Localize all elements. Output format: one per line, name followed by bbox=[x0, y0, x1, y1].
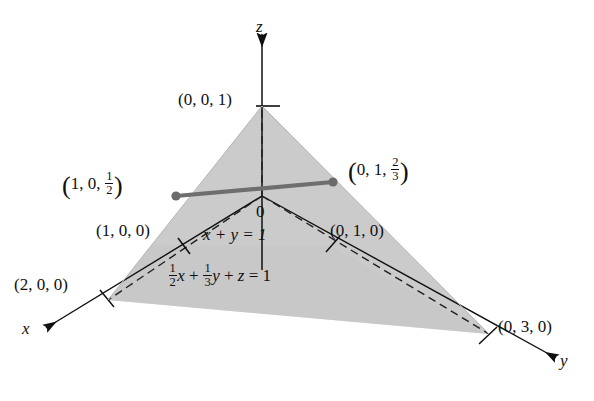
right-endpoint-y: 1 bbox=[374, 160, 383, 179]
plane-equals-one: = 1 bbox=[249, 266, 271, 285]
fraction-denominator: 3 bbox=[203, 275, 211, 289]
point-label-unit-x: (1, 0, 0) bbox=[96, 222, 150, 239]
point-label-unit-y: (0, 1, 0) bbox=[330, 222, 384, 239]
z-axis-label: z bbox=[256, 18, 263, 35]
plane-var-y: y bbox=[212, 266, 220, 285]
left-endpoint-z-fraction: 1 2 bbox=[105, 170, 113, 197]
fraction-denominator: 3 bbox=[391, 169, 399, 183]
fraction-numerator: 1 bbox=[203, 262, 211, 275]
coef-x-fraction: 1 2 bbox=[169, 262, 177, 289]
segment-endpoint-right-dot bbox=[328, 177, 337, 186]
comma-2: , bbox=[382, 160, 391, 179]
origin-label: 0 bbox=[256, 203, 265, 220]
fraction-numerator: 1 bbox=[105, 170, 113, 183]
x-axis-label: x bbox=[22, 320, 30, 337]
segment-endpoint-left-label: (1, 0, 1 2 ) bbox=[62, 170, 123, 199]
point-label-y-intercept: (0, 3, 0) bbox=[498, 318, 552, 335]
point-label-x-intercept: (2, 0, 0) bbox=[14, 276, 68, 293]
fraction-denominator: 2 bbox=[169, 275, 177, 289]
y-axis-label: y bbox=[560, 352, 568, 369]
paren-close: ) bbox=[114, 171, 123, 200]
comma-1: , bbox=[79, 174, 88, 193]
paren-open: ( bbox=[348, 157, 357, 186]
line-equation-label: x + y = 1 bbox=[203, 226, 267, 243]
plane-equation-label: 1 2 x + 1 3 y + z = 1 bbox=[168, 262, 271, 289]
spacer-1 bbox=[199, 266, 203, 285]
fraction-numerator: 2 bbox=[391, 156, 399, 169]
comma-1: , bbox=[365, 160, 374, 179]
point-label-z-intercept: (0, 0, 1) bbox=[178, 91, 232, 108]
math-figure: z x y (0, 0, 1) 0 (1, 0, 0) (0, 1, 0) (2… bbox=[0, 0, 594, 401]
plane-var-x: x bbox=[177, 266, 185, 285]
coef-y-fraction: 1 3 bbox=[203, 262, 211, 289]
left-endpoint-y: 0 bbox=[88, 174, 97, 193]
comma-2: , bbox=[96, 174, 105, 193]
fraction-numerator: 1 bbox=[169, 262, 177, 275]
left-endpoint-x: 1 bbox=[71, 174, 80, 193]
fraction-denominator: 2 bbox=[105, 183, 113, 197]
plus-sign-1: + bbox=[189, 266, 199, 285]
paren-close: ) bbox=[400, 157, 409, 186]
paren-open: ( bbox=[62, 171, 71, 200]
right-endpoint-x: 0 bbox=[357, 160, 366, 179]
segment-endpoint-left-dot bbox=[171, 191, 180, 200]
segment-endpoint-right-label: (0, 1, 2 3 ) bbox=[348, 156, 409, 185]
right-endpoint-z-fraction: 2 3 bbox=[391, 156, 399, 183]
plus-sign-2: + bbox=[224, 266, 234, 285]
figure-canvas bbox=[0, 0, 594, 401]
